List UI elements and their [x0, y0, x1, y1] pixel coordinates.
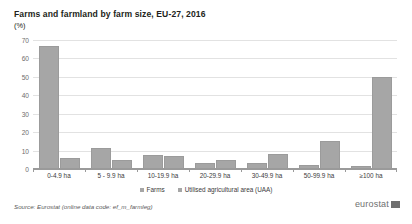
- chart-subtitle: (%): [14, 21, 26, 30]
- bar-group: [241, 40, 293, 169]
- bar-group: [345, 40, 397, 169]
- x-axis-line: [33, 168, 397, 169]
- bar-group: [85, 40, 137, 169]
- x-axis-category-label: 30-49.9 ha: [241, 172, 293, 179]
- x-axis-category-label: 20-29.9 ha: [189, 172, 241, 179]
- legend-swatch-icon: [178, 188, 182, 192]
- y-axis-tick-label: 50: [22, 73, 29, 80]
- y-axis-tick-label: 60: [22, 55, 29, 62]
- legend-item-farms[interactable]: Farms: [140, 186, 165, 193]
- y-axis-tick-label: 30: [22, 110, 29, 117]
- x-axis-category-label: 50-99.9 ha: [293, 172, 345, 179]
- legend-label: Farms: [147, 186, 165, 193]
- y-axis-tick-label: 10: [22, 147, 29, 154]
- eurostat-logo-mark: [391, 201, 400, 208]
- bar-group: [293, 40, 345, 169]
- x-axis-category-label: 10-19.9 ha: [137, 172, 189, 179]
- bar-group: [33, 40, 85, 169]
- y-axis-tick-label: 40: [22, 92, 29, 99]
- chart-figure: Farms and farmland by farm size, EU-27, …: [0, 0, 412, 224]
- bar-uaa[interactable]: [268, 154, 288, 169]
- y-axis-tick-label: 70: [22, 37, 29, 44]
- grid-line: [33, 169, 397, 170]
- y-axis-tick-label: 20: [22, 129, 29, 136]
- chart-legend: FarmsUtilised agricultural area (UAA): [0, 186, 412, 193]
- bar-uaa[interactable]: [320, 141, 340, 169]
- y-axis-tick-label: 0: [25, 166, 29, 173]
- legend-label: Utilised agricultural area (UAA): [185, 186, 273, 193]
- bar-farms[interactable]: [143, 155, 163, 169]
- x-axis-category-label: 0-4.9 ha: [33, 172, 85, 179]
- bar-group: [189, 40, 241, 169]
- bar-farms[interactable]: [91, 148, 111, 169]
- bar-group: [137, 40, 189, 169]
- x-axis-category-label: 5 - 9.9 ha: [85, 172, 137, 179]
- bar-series-container: [33, 40, 397, 169]
- bar-farms[interactable]: [39, 46, 59, 169]
- x-axis-labels: 0-4.9 ha5 - 9.9 ha10-19.9 ha20-29.9 ha30…: [33, 172, 397, 179]
- bar-uaa[interactable]: [372, 77, 392, 169]
- source-note: Source: Eurostat (online data code: ef_m…: [14, 203, 153, 210]
- plot-area: 010203040506070: [33, 40, 397, 169]
- chart-title: Farms and farmland by farm size, EU-27, …: [14, 9, 206, 19]
- legend-swatch-icon: [140, 188, 144, 192]
- eurostat-logo: eurostat: [355, 199, 400, 209]
- x-axis-category-label: ≥100 ha: [345, 172, 397, 179]
- eurostat-logo-text: eurostat: [355, 199, 389, 209]
- legend-item-uaa[interactable]: Utilised agricultural area (UAA): [178, 186, 273, 193]
